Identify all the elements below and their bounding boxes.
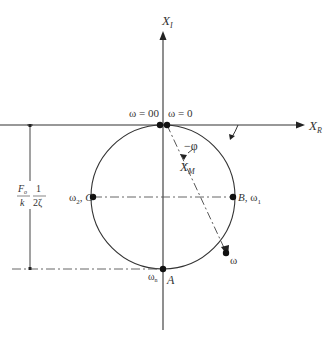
dimension-end-bottom [29, 267, 32, 270]
omega-zero-label: ω = 0 [168, 107, 193, 119]
point-omega [223, 250, 229, 256]
point-b [230, 194, 236, 200]
real-axis-arrow-icon [296, 122, 305, 129]
formula-k-den: k [20, 197, 25, 208]
imaginary-axis-label: XI [161, 13, 173, 30]
resonance-circle-diagram: XI XR ω = 00 ω = 0 −φ XM ω2, C B, ω1 ω ω… [0, 0, 335, 349]
point-omega-infinity [157, 122, 163, 128]
point-b-label: B, ω1 [238, 191, 261, 206]
dimension-end-top [29, 124, 32, 127]
point-a [160, 266, 166, 272]
point-c-label: ω2, C [69, 191, 93, 206]
point-omega-zero [164, 122, 170, 128]
imaginary-axis-arrow-icon [160, 31, 167, 40]
formula-2zeta-den: 2ζ [33, 197, 42, 209]
phase-angle-arrow-icon [229, 134, 235, 140]
formula-one-num: 1 [36, 183, 41, 194]
omega-infinity-label: ω = 00 [129, 107, 159, 119]
magnitude-label: XM [179, 159, 196, 176]
point-a-label: A [166, 273, 175, 287]
phase-angle-arc [232, 125, 238, 137]
real-axis-label: XR [308, 118, 322, 135]
omega-n-label: ωn [148, 271, 158, 283]
point-omega-label: ω [230, 254, 237, 266]
phase-label: −φ [184, 139, 198, 153]
